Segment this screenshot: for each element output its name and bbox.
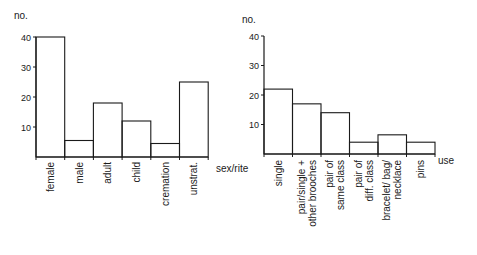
bar (93, 103, 122, 157)
chart-use: no.10203040singlepair/single +other broo… (242, 14, 455, 227)
charts-canvas: no.10203040femalemaleadultchildcremation… (0, 0, 477, 255)
category-label: pins (415, 160, 426, 178)
y-tick-label: 40 (249, 32, 259, 42)
chart-sex-rite: no.10203040femalemaleadultchildcremation… (14, 10, 249, 206)
category-label: pair/single + (296, 160, 307, 214)
category-label: other brooches (307, 160, 318, 227)
y-tick-label: 10 (249, 120, 259, 130)
y-tick-label: 20 (249, 91, 259, 101)
y-axis-label: no. (14, 10, 28, 21)
y-tick-label: 20 (21, 93, 31, 103)
bar (65, 141, 94, 158)
category-label: same class (335, 160, 346, 210)
bar (407, 142, 436, 154)
category-label: unstrat. (188, 162, 199, 195)
category-label: pair of (324, 160, 335, 188)
bar (321, 113, 350, 154)
category-label: male (74, 162, 85, 184)
y-tick-label: 10 (21, 123, 31, 133)
bar (151, 144, 180, 158)
category-label: diff. class (364, 160, 375, 202)
bar (122, 121, 151, 157)
y-tick-label: 30 (21, 63, 31, 73)
bar (36, 37, 65, 157)
bar (350, 142, 379, 154)
y-tick-label: 40 (21, 33, 31, 43)
y-axis-label: no. (242, 14, 256, 25)
category-label: single (273, 160, 284, 187)
x-axis-label: use (438, 155, 455, 166)
bar (264, 89, 293, 154)
category-label: adult (102, 162, 113, 184)
y-tick-label: 30 (249, 61, 259, 71)
bar (293, 104, 322, 154)
bar (180, 82, 209, 157)
category-label: necklace (392, 160, 403, 200)
category-label: pair of (353, 160, 364, 188)
x-axis-label: sex/rite (216, 163, 249, 174)
category-label: cremation (160, 162, 171, 206)
category-label: bracelet/ bag/ (381, 160, 392, 221)
category-label: female (45, 162, 56, 192)
bar (378, 135, 407, 154)
category-label: child (131, 162, 142, 183)
